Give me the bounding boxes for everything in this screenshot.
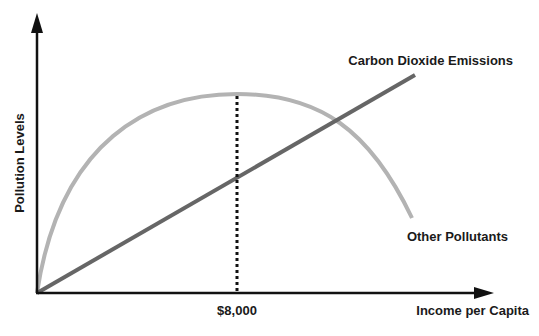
x-axis-arrow-icon xyxy=(474,287,494,299)
chart: Pollution Levels Income per Capita $8,00… xyxy=(0,0,539,336)
other-pollutants-curve xyxy=(37,94,412,293)
x-tick-label: $8,000 xyxy=(217,303,257,318)
y-axis-label: Pollution Levels xyxy=(12,113,27,213)
y-axis-arrow-icon xyxy=(31,13,43,33)
other-pollutants-label: Other Pollutants xyxy=(407,229,508,244)
co2-label: Carbon Dioxide Emissions xyxy=(348,53,513,68)
co2-line xyxy=(37,75,415,293)
x-axis-label: Income per Capita xyxy=(416,303,529,318)
